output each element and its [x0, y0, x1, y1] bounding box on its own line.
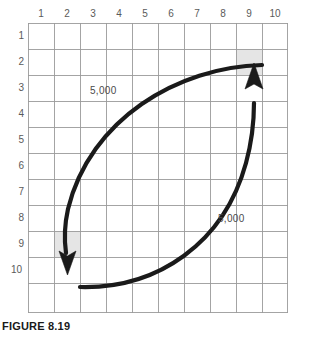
column-label-8: 8	[210, 8, 236, 20]
column-label-1: 1	[28, 8, 54, 20]
row-label-4: 4	[2, 108, 24, 120]
flow-arrow-top-right-to-bottom-left	[59, 65, 262, 275]
flow-label-top: 5,000	[90, 85, 117, 96]
row-label-2: 2	[2, 56, 24, 68]
flow-arrow-bottom-left-to-top-right	[80, 63, 263, 287]
row-label-10: 10	[0, 264, 22, 276]
column-label-3: 3	[80, 8, 106, 20]
flow-label-bottom: 5,000	[218, 213, 245, 224]
figure-caption: FIGURE 8.19	[2, 320, 70, 332]
column-label-4: 4	[106, 8, 132, 20]
column-label-7: 7	[184, 8, 210, 20]
arrowhead-down-icon	[59, 251, 76, 275]
column-label-9: 9	[236, 8, 262, 20]
row-label-3: 3	[2, 82, 24, 94]
flow-arrows	[28, 23, 288, 313]
row-label-6: 6	[2, 160, 24, 172]
row-label-7: 7	[2, 186, 24, 198]
row-label-8: 8	[2, 212, 24, 224]
column-label-10: 10	[262, 8, 288, 20]
figure-container: 1 2 3 4 5 6 7 8 9 10 1 2 3 4 5 6 7 8 9 1…	[0, 0, 322, 342]
column-label-2: 2	[54, 8, 80, 20]
column-label-5: 5	[132, 8, 158, 20]
row-label-5: 5	[2, 134, 24, 146]
grid-area: 5,000 5,000	[28, 23, 288, 313]
row-label-1: 1	[2, 30, 24, 42]
row-label-9: 9	[2, 238, 24, 250]
column-label-6: 6	[158, 8, 184, 20]
